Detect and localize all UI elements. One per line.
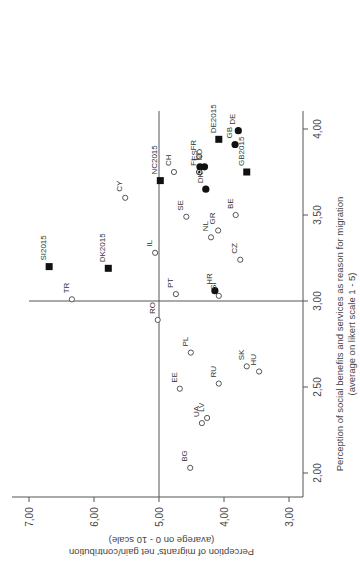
x-tick-label: 3,50	[312, 205, 323, 225]
data-point: SE	[176, 200, 189, 219]
data-point: CY	[115, 180, 128, 200]
point-label: GB2015	[237, 136, 246, 166]
open-circle-marker-icon	[238, 257, 243, 262]
open-circle-marker-icon	[155, 317, 160, 322]
point-label: SI	[209, 282, 218, 290]
open-circle-marker-icon	[123, 195, 128, 200]
square-marker-icon	[215, 136, 222, 143]
point-label: PL	[181, 336, 190, 346]
open-circle-marker-icon	[257, 369, 262, 374]
data-point: BE	[226, 198, 239, 217]
data-points: DEDE2015GBGB2015FRESNOFIDKNC2015CHCYSEBE…	[39, 104, 262, 471]
open-circle-marker-icon	[233, 212, 238, 217]
open-circle-marker-icon	[208, 235, 213, 240]
open-circle-marker-icon	[188, 465, 193, 470]
open-circle-marker-icon	[205, 415, 210, 420]
point-label: GB	[225, 127, 234, 139]
filled-circle-marker-icon	[235, 127, 242, 134]
point-label: UA	[192, 405, 201, 417]
point-label: FI	[189, 159, 198, 166]
x-axis-title: Perception of social benefits and servic…	[334, 197, 345, 472]
y-tick-label: 7,00	[24, 507, 35, 527]
point-label: SK	[237, 349, 246, 360]
x-tick-label: 3,00	[312, 291, 323, 311]
y-axis-title: Perception of migrants' net gain/contrib…	[69, 547, 254, 558]
scatter-chart: 2,002,503,003,504,003,004,005,006,007,00…	[0, 0, 360, 574]
x-tick-label: 2,00	[312, 463, 323, 483]
open-circle-marker-icon	[216, 228, 221, 233]
data-point: IL	[145, 240, 158, 256]
point-label: CY	[115, 180, 124, 192]
reference-lines	[29, 111, 303, 497]
square-marker-icon	[243, 169, 250, 176]
y-tick-label: 6,00	[89, 507, 100, 527]
point-label: IL	[145, 240, 154, 247]
data-point: DE2015	[209, 104, 223, 143]
point-label: SI2015	[39, 235, 48, 261]
square-marker-icon	[46, 263, 53, 270]
open-circle-marker-icon	[69, 297, 74, 302]
open-circle-marker-icon	[177, 386, 182, 391]
data-point: DK	[196, 171, 210, 192]
point-label: SE	[176, 200, 185, 211]
data-point: EE	[170, 372, 183, 391]
axes: 2,002,503,003,504,003,004,005,006,007,00	[12, 111, 323, 527]
open-circle-marker-icon	[184, 214, 189, 219]
point-label: NL	[201, 221, 210, 232]
data-point: BG	[180, 450, 193, 470]
data-point: SI2015	[39, 235, 53, 270]
x-tick-label: 4,00	[312, 119, 323, 139]
point-label: RU	[209, 366, 218, 378]
point-label: BG	[180, 450, 189, 462]
open-circle-marker-icon	[199, 421, 204, 426]
y-tick-label: 5,00	[154, 507, 165, 527]
filled-circle-marker-icon	[202, 186, 209, 193]
open-circle-marker-icon	[216, 293, 221, 298]
point-label: PT	[166, 278, 175, 288]
y-tick-label: 4,00	[219, 507, 230, 527]
data-point: CZ	[230, 243, 243, 262]
point-label: CH	[164, 154, 173, 166]
point-label: HU	[249, 354, 258, 366]
data-point: NC2015	[150, 145, 164, 184]
data-point: SI	[209, 282, 222, 298]
data-point: HU	[249, 354, 262, 374]
point-label: DE	[228, 114, 237, 125]
data-point: GR	[208, 212, 221, 233]
point-label: DK	[196, 171, 205, 183]
open-circle-marker-icon	[216, 381, 221, 386]
square-marker-icon	[157, 177, 164, 184]
data-point: DK2015	[98, 233, 112, 272]
point-label: DK2015	[98, 233, 107, 262]
point-label: NC2015	[150, 145, 159, 175]
data-point: SK	[237, 349, 250, 369]
data-point: PL	[181, 336, 194, 355]
open-circle-marker-icon	[173, 292, 178, 297]
open-circle-marker-icon	[171, 169, 176, 174]
data-point: CH	[164, 154, 177, 174]
point-label: CZ	[230, 243, 239, 254]
open-circle-marker-icon	[153, 250, 158, 255]
data-point: RU	[209, 366, 222, 386]
data-point: RO	[148, 302, 161, 323]
point-label: BE	[226, 198, 235, 209]
point-label: EE	[170, 372, 179, 383]
point-label: DE2015	[209, 104, 218, 133]
data-point: TR	[62, 282, 75, 301]
data-point: PT	[166, 278, 179, 297]
y-tick-label: 3,00	[284, 507, 295, 527]
square-marker-icon	[105, 265, 112, 272]
y-axis-subtitle: (avarege on 0 - 10 scale)	[109, 535, 215, 546]
filled-circle-marker-icon	[201, 163, 208, 170]
x-axis-subtitle: (average on likert scale 1 - 5)	[346, 272, 357, 395]
x-tick-label: 2,50	[312, 377, 323, 397]
data-point: GB2015	[237, 136, 251, 175]
point-label: RO	[148, 302, 157, 314]
point-label: TR	[62, 282, 71, 293]
open-circle-marker-icon	[188, 350, 193, 355]
